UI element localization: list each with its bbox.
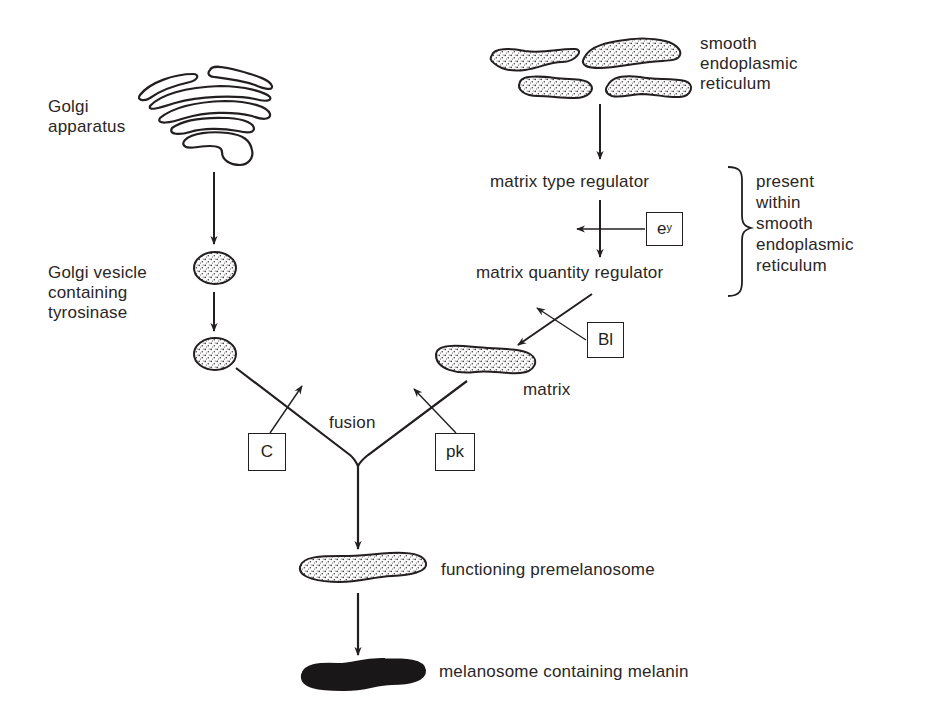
golgi-vesicle-label-2: containing — [48, 282, 128, 303]
melanosome-label: melanosome containing melanin — [439, 661, 689, 682]
bracket-note-line-2: within — [756, 192, 801, 213]
golgi-apparatus-label-2: apparatus — [48, 116, 125, 137]
melanosome-icon — [302, 659, 425, 690]
premelanosome-label: functioning premelanosome — [441, 559, 655, 580]
golgi-apparatus-icon — [139, 67, 272, 165]
gene-pk-label: pk — [446, 442, 464, 462]
golgi-vesicle-label-3: tyrosinase — [48, 302, 127, 323]
gene-box-bl: Bl — [587, 322, 624, 358]
matrix-type-regulator-label: matrix type regulator — [490, 171, 649, 192]
smooth-er-label-2: endoplasmic — [700, 53, 798, 74]
premelanosome-icon — [300, 553, 426, 582]
matrix-icon — [436, 346, 535, 373]
fusion-label: fusion — [329, 412, 376, 433]
bracket-note-line-1: present — [756, 171, 814, 192]
golgi-vesicle-label-1: Golgi vesicle — [48, 262, 147, 283]
arrow-bl-effect — [537, 308, 586, 340]
tyrosinase-vesicle-icon — [194, 338, 236, 370]
bracket-note-line-3: smooth — [756, 213, 813, 234]
smooth-er-label-1: smooth — [700, 33, 757, 54]
bracket-icon — [728, 167, 751, 296]
gene-box-c: C — [248, 433, 286, 471]
gene-box-ey: ey — [646, 212, 683, 246]
arrow-pk-effect — [414, 389, 456, 433]
smooth-er-label-3: reticulum — [700, 73, 771, 94]
gene-box-pk: pk — [435, 433, 475, 471]
bracket-note-line-4: endoplasmic — [756, 234, 854, 255]
arrow-c-effect — [270, 386, 302, 433]
bracket-note-line-5: reticulum — [756, 255, 827, 276]
gene-bl-label: Bl — [598, 330, 613, 350]
gene-ey-sup: y — [666, 221, 672, 233]
gene-ey-base: e — [657, 219, 666, 239]
golgi-apparatus-label-1: Golgi — [48, 96, 89, 117]
smooth-er-icon — [491, 39, 691, 99]
golgi-vesicle-icon — [194, 252, 236, 284]
matrix-label: matrix — [523, 379, 570, 400]
matrix-quantity-regulator-label: matrix quantity regulator — [476, 262, 663, 283]
melanosome-pathway-diagram — [0, 0, 940, 722]
gene-c-label: C — [261, 442, 273, 462]
